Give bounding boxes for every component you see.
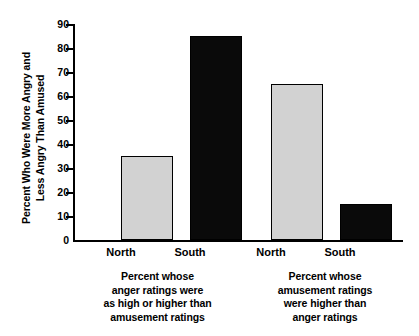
y-tick-label-40: 40 (57, 138, 69, 150)
y-tick-label-10: 10 (57, 210, 69, 222)
y-tick-label-30: 30 (57, 162, 69, 174)
y-tick-label-20: 20 (57, 186, 69, 198)
group-caption-1-line-2: anger ratings were (65, 284, 250, 298)
y-tick-label-50: 50 (57, 114, 69, 126)
y-axis-title: Percent Who Were More Angry and Less Ang… (13, 18, 53, 258)
group-caption-2: Percent whose amusement ratings were hig… (245, 270, 405, 324)
x-label-group2-north: North (245, 246, 297, 258)
y-axis-title-line-2: Less Angry Than Amused (33, 75, 47, 202)
bar-group1-north (121, 156, 173, 240)
bar-group2-south (340, 204, 392, 240)
x-label-group2-south: South (314, 246, 366, 258)
group-caption-2-line-2: amusement ratings (245, 284, 405, 298)
y-axis-line (73, 24, 75, 241)
bar-group1-south (190, 36, 242, 240)
plot-area: 90 80 70 60 50 40 30 20 (73, 24, 403, 240)
y-tick-label-80: 80 (57, 42, 69, 54)
group-caption-2-line-1: Percent whose (245, 270, 405, 284)
y-tick-label-60: 60 (57, 90, 69, 102)
bar-group2-north (271, 84, 323, 240)
y-tick-label-70: 70 (57, 66, 69, 78)
group-caption-1-line-4: amusement ratings (65, 311, 250, 325)
bar-chart: Percent Who Were More Angry and Less Ang… (0, 0, 419, 336)
x-axis-line (73, 240, 403, 242)
y-tick-label-0: 0 (63, 234, 69, 246)
group-caption-1-line-1: Percent whose (65, 270, 250, 284)
x-label-group1-south: South (164, 246, 216, 258)
group-caption-1-line-3: as high or higher than (65, 297, 250, 311)
group-caption-2-line-3: were higher than (245, 297, 405, 311)
group-caption-1: Percent whose anger ratings were as high… (65, 270, 250, 324)
group-caption-2-line-4: anger ratings (245, 311, 405, 325)
y-axis-title-line-1: Percent Who Were More Angry and (19, 52, 33, 224)
x-label-group1-north: North (95, 246, 147, 258)
y-tick-label-90: 90 (57, 18, 69, 30)
